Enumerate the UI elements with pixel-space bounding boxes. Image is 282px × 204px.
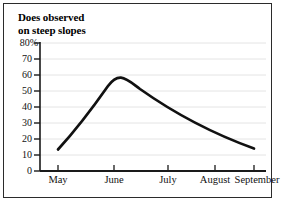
line-chart-svg bbox=[4, 4, 273, 199]
y-tick-label-50: 50 bbox=[10, 86, 32, 96]
x-tick-label-july: July bbox=[146, 174, 190, 185]
y-tick-label-60: 60 bbox=[10, 70, 32, 80]
x-axis bbox=[40, 165, 266, 171]
y-tick-label-0: 0 bbox=[10, 166, 32, 176]
y-tick-label-40: 40 bbox=[10, 102, 32, 112]
y-tick-label-70: 70 bbox=[10, 54, 32, 64]
y-tick-label-10: 10 bbox=[10, 150, 32, 160]
y-tick-label-20: 20 bbox=[10, 134, 32, 144]
y-tick-label-30: 30 bbox=[10, 118, 32, 128]
x-tick-label-september: September bbox=[226, 174, 282, 185]
x-tick-label-may: May bbox=[36, 174, 80, 185]
chart-frame: Does observed on steep slopes bbox=[3, 3, 272, 198]
y-tick-label-80: 80% bbox=[10, 38, 38, 48]
x-tick-label-june: June bbox=[92, 174, 136, 185]
y-axis bbox=[34, 42, 40, 171]
plot-area: 80% 70 60 50 40 30 20 10 0 May June July… bbox=[4, 4, 273, 199]
